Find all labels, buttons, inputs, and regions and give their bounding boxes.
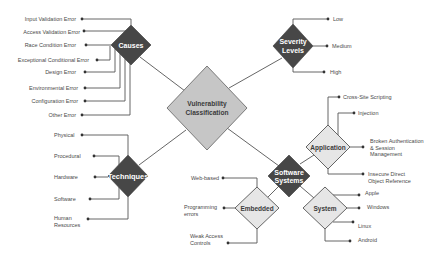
severity-node: Severity Levels xyxy=(273,24,313,68)
embedded-programming-errors-line-1: Programming xyxy=(184,204,217,210)
embedded-node: Embedded xyxy=(235,187,279,229)
connector-dot xyxy=(362,146,365,149)
cause-design-error: Design Error xyxy=(45,69,76,75)
connector-dot xyxy=(87,218,90,221)
connector-dot xyxy=(327,18,330,21)
software-systems-to-embedded-line xyxy=(267,186,279,198)
software-systems-label-line-2: Systems xyxy=(275,177,304,185)
wire-configuration xyxy=(85,59,125,101)
technique-hardware: Hardware xyxy=(54,174,78,180)
connector-dot xyxy=(358,194,361,197)
connector-dot xyxy=(85,44,88,47)
wire-cross-site-scripting xyxy=(328,97,339,125)
technique-human-resources-line-2: Resources xyxy=(54,222,81,228)
wire-injection xyxy=(338,113,354,135)
severity-label-line-1: Severity xyxy=(279,38,306,46)
application-broken-auth-line-2: & Session xyxy=(370,145,395,151)
wire-low xyxy=(293,19,328,24)
root-label-line-1: Vulnerability xyxy=(187,100,227,108)
wire-procedural xyxy=(94,156,119,165)
system-apple: Apple xyxy=(365,190,379,196)
root-diamond xyxy=(167,66,247,150)
embedded-weak-access-line-2: Controls xyxy=(190,240,211,246)
connector-dot xyxy=(358,207,361,210)
connector-dot xyxy=(227,242,230,245)
software-systems-to-application-line xyxy=(300,155,314,164)
connector-dot xyxy=(93,155,96,158)
connector-dot xyxy=(349,240,352,243)
connector-dot xyxy=(362,173,365,176)
system-windows: Windows xyxy=(367,204,390,210)
connector-dot xyxy=(94,176,97,179)
application-insecure-direct-line-1: Insecure Direct xyxy=(368,171,405,177)
technique-human-resources-line-1: Human xyxy=(54,215,72,221)
wire-physical xyxy=(82,135,128,155)
system-children: Apple Windows Linux Android xyxy=(358,190,390,243)
connector-dot xyxy=(323,71,326,74)
cause-other-error: Other Error xyxy=(48,112,76,118)
wire-weak-access-controls xyxy=(228,229,257,243)
connector-dot xyxy=(83,30,86,33)
embedded-weak-access-line-1: Weak Access xyxy=(190,233,223,239)
vulnerability-classification-diagram: Vulnerability Classification Causes Seve… xyxy=(0,0,441,261)
causes-to-root-line xyxy=(140,57,185,91)
wire-web-based xyxy=(223,178,257,187)
connector-dot xyxy=(84,100,87,103)
embedded-programming-errors-line-2: errors xyxy=(184,211,199,217)
connector-dot xyxy=(96,59,99,62)
cause-environmental-error: Environmental Error xyxy=(29,85,78,91)
root-node: Vulnerability Classification xyxy=(167,66,247,150)
severity-medium: Medium xyxy=(332,43,352,49)
connector-dot xyxy=(81,114,84,117)
wire-software xyxy=(90,187,119,199)
severity-children: Low Medium High xyxy=(330,16,352,75)
technique-procedural: Procedural xyxy=(54,153,81,159)
wire-human-resources xyxy=(88,197,128,219)
connector-dot xyxy=(84,87,87,90)
system-linux: Linux xyxy=(358,223,371,229)
application-label: Application xyxy=(310,144,345,152)
system-label: System xyxy=(313,205,336,213)
connector-dot xyxy=(223,207,226,210)
connector-dot xyxy=(81,134,84,137)
techniques-label: Techniques xyxy=(108,172,149,181)
embedded-label: Embedded xyxy=(240,205,273,212)
severity-to-root-line xyxy=(229,58,282,88)
application-broken-auth-line-1: Broken Authentication xyxy=(370,138,424,144)
connector-dot xyxy=(326,45,329,48)
wire-input-validation xyxy=(82,19,131,25)
connector-dot xyxy=(352,221,355,224)
system-android: Android xyxy=(358,237,377,243)
causes-label: Causes xyxy=(119,42,144,49)
application-injection: Injection xyxy=(358,110,379,116)
application-children: Cross-Site Scripting Injection Broken Au… xyxy=(343,94,424,184)
cause-exceptional-conditional-error: Exceptional Conditional Error xyxy=(18,57,89,63)
wire-exceptional-conditional xyxy=(97,46,110,60)
embedded-web-based: Web-based xyxy=(191,175,219,181)
techniques-to-root-line xyxy=(139,130,186,165)
system-node: System xyxy=(303,187,347,229)
technique-software: Software xyxy=(54,196,76,202)
diagram-canvas: Vulnerability Classification Causes Seve… xyxy=(0,0,441,261)
wire-insecure-direct-object-reference xyxy=(328,169,363,174)
embedded-children: Web-based Programming errors Weak Access… xyxy=(184,175,223,246)
causes-children: Input Validation Error Access Validation… xyxy=(18,16,89,118)
cause-race-condition-error: Race Condition Error xyxy=(25,42,77,48)
connector-dot xyxy=(84,71,87,74)
wire-high xyxy=(293,68,324,72)
application-insecure-direct-line-2: Object Reference xyxy=(368,178,411,184)
cause-input-validation-error: Input Validation Error xyxy=(25,16,76,22)
wire-android xyxy=(325,229,350,241)
connector-dot xyxy=(81,18,84,21)
cause-configuration-error: Configuration Error xyxy=(32,98,79,104)
application-broken-auth-line-3: Management xyxy=(370,151,403,157)
application-node: Application xyxy=(306,125,350,169)
severity-low: Low xyxy=(333,16,343,22)
connector-dot xyxy=(338,96,341,99)
technique-physical: Physical xyxy=(54,132,74,138)
cause-access-validation-error: Access Validation Error xyxy=(23,29,80,35)
connector-dot xyxy=(222,177,225,180)
connector-dot xyxy=(353,112,356,115)
software-systems-to-system-line xyxy=(300,186,314,198)
root-to-software-systems-line xyxy=(227,128,279,166)
